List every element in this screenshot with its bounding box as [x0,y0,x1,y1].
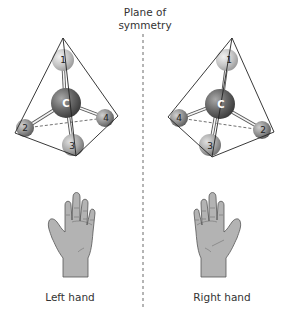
left-hand-caption: Left hand [10,291,130,303]
atom-1-label: 1 [60,55,66,65]
left-hand-icon [48,193,95,278]
atom-3-label: 3 [207,141,213,151]
right-hand-icon [194,193,241,278]
carbon-label: C [217,99,224,110]
atom-4-label: 4 [176,113,182,123]
atom-1-label: 1 [226,55,232,65]
atom-2-label: 2 [22,123,28,133]
atom-4-label: 4 [103,113,109,123]
carbon-label: C [62,98,69,109]
right-hand-caption: Right hand [162,291,282,303]
atom-3-label: 3 [69,141,75,151]
atom-2-label: 2 [260,125,266,135]
left-molecule: 1 2 4 3 C [15,38,118,156]
right-molecule: 1 4 2 3 C [168,38,274,157]
chirality-diagram: 1 2 4 3 C [0,0,290,314]
